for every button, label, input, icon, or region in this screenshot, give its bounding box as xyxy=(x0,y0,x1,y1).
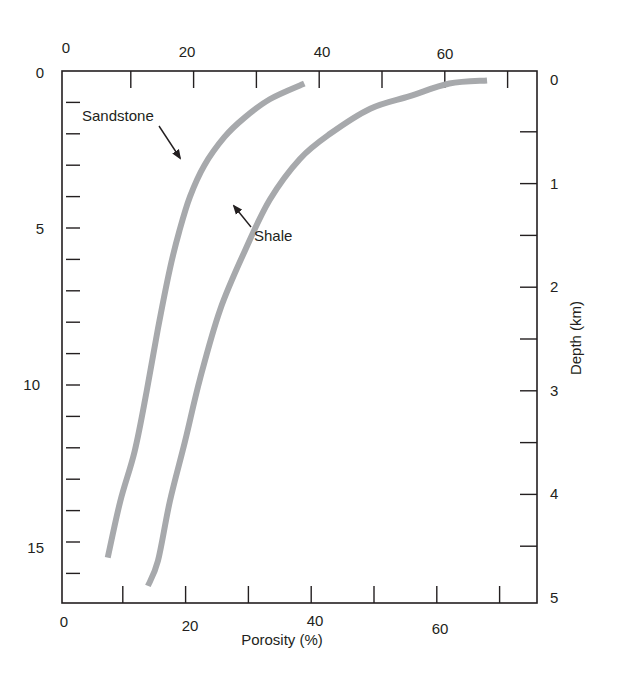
y-left-tick-label: 0 xyxy=(36,64,44,81)
right-axis-ticks xyxy=(520,132,537,546)
plot-frame xyxy=(62,71,537,603)
x-tick-label: 0 xyxy=(60,613,68,630)
porosity-depth-chart: 0204060 0204060 051015 012345 Porosity (… xyxy=(0,0,620,684)
shale-arrow-icon xyxy=(234,206,251,227)
sandstone-curve xyxy=(108,84,305,558)
y-right-tick-label: 1 xyxy=(550,175,558,192)
y-left-tick-label: 10 xyxy=(23,376,40,393)
curves xyxy=(108,80,487,586)
y-left-tick-label: 5 xyxy=(36,220,44,237)
sandstone-label: Sandstone xyxy=(82,107,154,124)
y-right-tick-label: 4 xyxy=(550,485,558,502)
y-right-tick-label: 3 xyxy=(550,382,558,399)
x-tick-label-top: 0 xyxy=(62,39,70,56)
top-axis-labels: 0204060 xyxy=(62,39,454,62)
shale-curve xyxy=(148,80,487,586)
y-left-tick-label: 15 xyxy=(27,539,44,556)
x-tick-label-top: 20 xyxy=(179,43,196,60)
y-right-tick-label: 0 xyxy=(550,71,558,88)
left-axis-ticks xyxy=(66,102,80,573)
y-right-tick-label: 5 xyxy=(550,589,558,606)
bottom-axis-ticks xyxy=(123,586,500,603)
right-axis-labels: 012345 xyxy=(550,71,558,606)
x-tick-label: 40 xyxy=(307,612,324,629)
x-axis-title: Porosity (%) xyxy=(241,631,323,648)
x-tick-label: 60 xyxy=(432,620,449,637)
left-axis-labels: 051015 xyxy=(23,64,44,556)
shale-label: Shale xyxy=(254,227,292,244)
right-y-axis-title: Depth (km) xyxy=(567,301,584,375)
sandstone-arrow-icon xyxy=(159,126,180,158)
x-tick-label-top: 40 xyxy=(314,43,331,60)
x-tick-label-top: 60 xyxy=(437,45,454,62)
y-right-tick-label: 2 xyxy=(550,278,558,295)
x-tick-label: 20 xyxy=(182,617,199,634)
